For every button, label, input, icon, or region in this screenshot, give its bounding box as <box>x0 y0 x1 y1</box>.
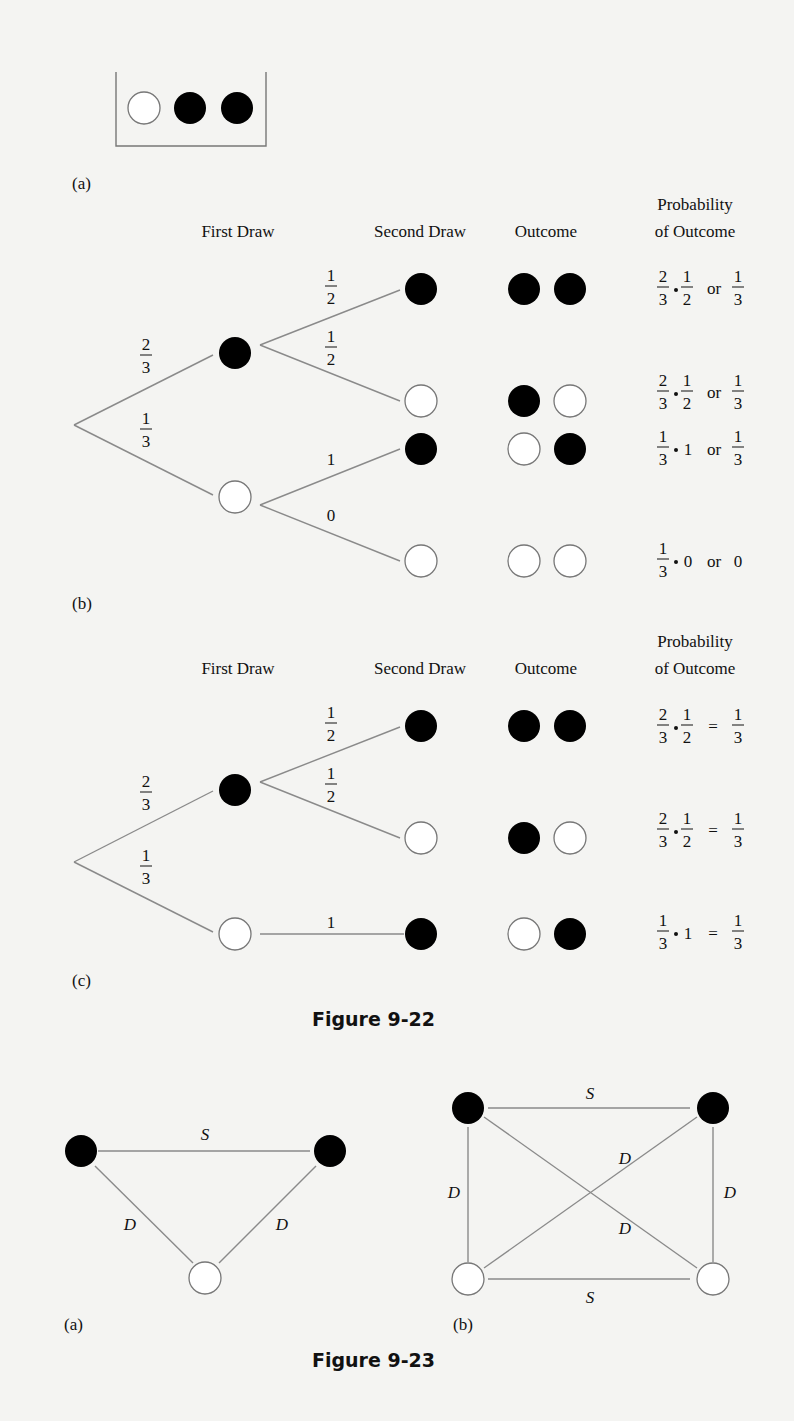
black-ball-icon <box>508 385 540 417</box>
svg-text:=: = <box>708 924 718 943</box>
svg-text:or: or <box>707 383 722 402</box>
edge-label-different: D <box>618 1149 632 1168</box>
svg-text:1: 1 <box>734 267 743 286</box>
black-ball-icon <box>405 433 437 465</box>
black-ball-icon <box>65 1135 97 1167</box>
white-ball-icon <box>554 385 586 417</box>
part-label-a: (a) <box>64 1315 83 1334</box>
black-ball-icon <box>314 1135 346 1167</box>
outcome-probability: 2 3 1 2 = 1 3 <box>657 705 744 747</box>
svg-text:2: 2 <box>327 289 336 308</box>
white-ball-icon <box>508 545 540 577</box>
svg-text:2: 2 <box>327 787 336 806</box>
svg-text:1: 1 <box>683 267 692 286</box>
black-ball-icon <box>219 774 251 806</box>
svg-text:2: 2 <box>659 371 668 390</box>
svg-text:3: 3 <box>659 450 668 469</box>
svg-text:3: 3 <box>659 394 668 413</box>
branch-prob-1-2: 1 2 <box>325 266 337 308</box>
outcome-probability: 1 3 1 or 1 3 <box>657 427 744 469</box>
branch-prob-1-2: 1 2 <box>325 703 337 745</box>
header-probability: Probability <box>657 195 733 214</box>
svg-text:1: 1 <box>142 409 151 428</box>
branch-prob-2-3: 2 3 <box>140 335 152 377</box>
black-ball-icon <box>174 92 206 124</box>
edge-label-different: D <box>618 1219 632 1238</box>
svg-text:0: 0 <box>684 552 693 571</box>
black-ball-icon <box>554 918 586 950</box>
svg-text:1: 1 <box>659 427 668 446</box>
branch-prob-1-3: 1 3 <box>140 846 152 888</box>
black-ball-icon <box>508 822 540 854</box>
svg-text:3: 3 <box>659 934 668 953</box>
svg-text:=: = <box>708 717 718 736</box>
svg-text:1: 1 <box>734 911 743 930</box>
white-ball-icon <box>452 1263 484 1295</box>
edge-label-different: D <box>723 1183 737 1202</box>
branch-prob-0: 0 <box>327 506 336 525</box>
black-ball-icon <box>405 918 437 950</box>
outcome-probability: 2 3 1 2 = 1 3 <box>657 809 744 851</box>
svg-text:2: 2 <box>659 705 668 724</box>
outcome-probability: 1 3 0 or 0 <box>657 539 742 581</box>
header-outcome: Outcome <box>515 659 577 678</box>
branch-prob-1: 1 <box>327 450 336 469</box>
edge-label-different: D <box>275 1215 289 1234</box>
svg-text:3: 3 <box>734 934 743 953</box>
svg-text:0: 0 <box>734 552 743 571</box>
edge-label-same: S <box>586 1288 595 1307</box>
black-ball-icon <box>405 710 437 742</box>
figure-caption-9-23: Figure 9-23 <box>312 1349 435 1371</box>
svg-text:3: 3 <box>734 290 743 309</box>
svg-text:1: 1 <box>734 705 743 724</box>
white-ball-icon <box>508 918 540 950</box>
white-ball-icon <box>405 545 437 577</box>
black-ball-icon <box>508 273 540 305</box>
white-ball-icon <box>219 481 251 513</box>
svg-text:2: 2 <box>142 772 151 791</box>
white-ball-icon <box>554 545 586 577</box>
header-second-draw: Second Draw <box>374 659 467 678</box>
svg-text:1: 1 <box>659 539 668 558</box>
svg-text:3: 3 <box>734 728 743 747</box>
svg-text:3: 3 <box>142 358 151 377</box>
outcome-probability: 1 3 1 = 1 3 <box>657 911 744 953</box>
svg-text:2: 2 <box>683 394 692 413</box>
black-ball-icon <box>508 710 540 742</box>
svg-text:2: 2 <box>659 267 668 286</box>
branch-prob-1-2: 1 2 <box>325 764 337 806</box>
svg-text:3: 3 <box>142 795 151 814</box>
edge-label-same: S <box>586 1084 595 1103</box>
branch-prob-1-3: 1 3 <box>140 409 152 451</box>
svg-text:3: 3 <box>659 728 668 747</box>
edge-label-different: D <box>123 1215 137 1234</box>
svg-text:2: 2 <box>683 290 692 309</box>
fig23-part-b: S S D D D D (b) <box>447 1084 737 1334</box>
svg-text:1: 1 <box>734 371 743 390</box>
branch-prob-2-3: 2 3 <box>140 772 152 814</box>
fig22-part-a: (a) <box>72 72 266 193</box>
white-ball-icon <box>189 1262 221 1294</box>
part-label-c: (c) <box>72 971 91 990</box>
header-second-draw: Second Draw <box>374 222 467 241</box>
svg-text:1: 1 <box>327 764 336 783</box>
white-ball-icon <box>405 385 437 417</box>
black-ball-icon <box>221 92 253 124</box>
svg-text:3: 3 <box>659 832 668 851</box>
white-ball-icon <box>508 433 540 465</box>
white-ball-icon <box>219 918 251 950</box>
white-ball-icon <box>697 1263 729 1295</box>
graph-edge <box>219 1166 316 1263</box>
svg-text:3: 3 <box>142 869 151 888</box>
header-first-draw: First Draw <box>201 659 275 678</box>
svg-text:1: 1 <box>142 846 151 865</box>
black-ball-icon <box>554 433 586 465</box>
white-ball-icon <box>405 822 437 854</box>
svg-text:2: 2 <box>683 728 692 747</box>
figure-caption-9-22: Figure 9-22 <box>312 1008 435 1030</box>
header-probability: Probability <box>657 632 733 651</box>
svg-text:2: 2 <box>659 809 668 828</box>
svg-text:2: 2 <box>327 350 336 369</box>
svg-text:1: 1 <box>684 440 693 459</box>
svg-text:1: 1 <box>684 924 693 943</box>
